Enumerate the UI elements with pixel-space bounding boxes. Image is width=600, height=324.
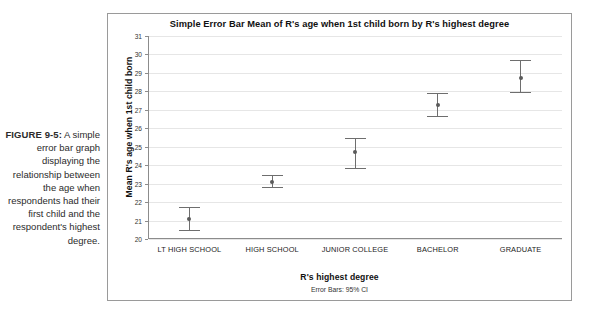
y-tick-label: 26 <box>112 125 142 132</box>
figure-caption: FIGURE 9-5: A simple error bar graph dis… <box>0 128 100 247</box>
y-tick-label: 31 <box>112 33 142 40</box>
error-bar-cap-lower <box>262 187 283 188</box>
error-bar-note: Error Bars: 95% CI <box>108 286 571 293</box>
plot-area: 202122232425262728293031 LT HIGH SCHOOLH… <box>148 36 562 239</box>
y-tick-mark <box>145 73 148 74</box>
y-tick-mark <box>145 202 148 203</box>
y-tick-label: 23 <box>112 180 142 187</box>
mean-marker[interactable] <box>353 150 357 154</box>
error-bar-cap-upper <box>179 207 200 208</box>
gridline <box>149 128 562 129</box>
y-tick-mark <box>145 54 148 55</box>
error-bar-cap-upper <box>510 60 531 61</box>
y-tick-label: 20 <box>112 236 142 243</box>
gridline <box>149 239 562 240</box>
y-tick-mark <box>145 221 148 222</box>
error-bar-cap-lower <box>179 230 200 231</box>
y-tick-label: 24 <box>112 162 142 169</box>
gridline <box>149 91 562 92</box>
error-bar-cap-upper <box>427 93 448 94</box>
gridline <box>149 202 562 203</box>
chart-title: Simple Error Bar Mean of R's age when 1s… <box>108 19 571 29</box>
y-tick-label: 30 <box>112 51 142 58</box>
y-tick-label: 21 <box>112 217 142 224</box>
y-tick-mark <box>145 128 148 129</box>
gridline <box>149 221 562 222</box>
y-tick-label: 28 <box>112 88 142 95</box>
figure-caption-label: FIGURE 9-5: <box>5 129 62 140</box>
y-tick-mark <box>145 110 148 111</box>
gridline <box>149 165 562 166</box>
y-tick-label: 27 <box>112 106 142 113</box>
gridline <box>149 110 562 111</box>
figure-caption-text: A simple error bar graph displaying the … <box>8 129 100 246</box>
mean-marker[interactable] <box>436 103 440 107</box>
x-tick-label: GRADUATE <box>479 245 563 254</box>
gridline <box>149 36 562 37</box>
gridline <box>149 184 562 185</box>
y-tick-mark <box>145 91 148 92</box>
y-tick-label: 29 <box>112 69 142 76</box>
error-bar-cap-upper <box>262 175 283 176</box>
gridline <box>149 147 562 148</box>
error-bar-cap-lower <box>345 168 366 169</box>
y-tick-mark <box>145 147 148 148</box>
y-tick-label: 22 <box>112 199 142 206</box>
x-tick-label: HIGH SCHOOL <box>230 245 314 254</box>
error-bar-cap-lower <box>510 92 531 93</box>
y-axis-line <box>148 36 149 239</box>
y-tick-mark <box>145 36 148 37</box>
x-tick-label: BACHELOR <box>396 245 480 254</box>
x-tick-label: LT HIGH SCHOOL <box>147 245 231 254</box>
figure-frame: Simple Error Bar Mean of R's age when 1s… <box>107 13 572 301</box>
error-bar-cap-upper <box>345 138 366 139</box>
y-tick-mark <box>145 239 148 240</box>
gridline <box>149 54 562 55</box>
gridline <box>149 73 562 74</box>
mean-marker[interactable] <box>270 180 274 184</box>
y-tick-mark <box>145 184 148 185</box>
y-tick-mark <box>145 165 148 166</box>
x-tick-label: JUNIOR COLLEGE <box>313 245 397 254</box>
y-tick-label: 25 <box>112 143 142 150</box>
x-axis-title: R's highest degree <box>108 272 571 282</box>
mean-marker[interactable] <box>519 76 523 80</box>
error-bar-cap-lower <box>427 116 448 117</box>
